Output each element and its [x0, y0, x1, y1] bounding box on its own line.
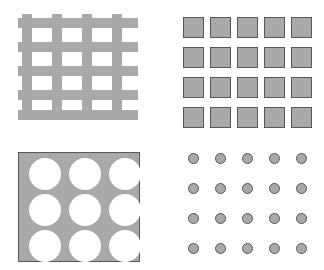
- pattern-square: [210, 47, 231, 68]
- plate-hole: [29, 158, 61, 190]
- pattern-dot: [269, 243, 280, 254]
- pattern-square: [237, 47, 258, 68]
- pattern-dot: [188, 153, 199, 164]
- dot-array-panel: [162, 135, 324, 270]
- pattern-dot: [188, 183, 199, 194]
- mesh-horizontal-bar: [18, 18, 138, 28]
- plate-hole: [69, 158, 101, 190]
- pattern-dot: [269, 213, 280, 224]
- pattern-dot: [215, 243, 226, 254]
- mesh-horizontal-bar: [18, 110, 138, 120]
- pattern-square: [237, 107, 258, 128]
- pattern-dot: [188, 243, 199, 254]
- pattern-square: [183, 77, 204, 98]
- perforated-plate-panel: [0, 135, 162, 270]
- pattern-square: [237, 77, 258, 98]
- plate-hole: [29, 230, 61, 262]
- pattern-square: [291, 17, 312, 38]
- perforated-plate: [18, 152, 140, 262]
- plate-hole: [109, 158, 141, 190]
- pattern-dot: [269, 183, 280, 194]
- plate-hole: [29, 194, 61, 226]
- pattern-square: [210, 17, 231, 38]
- plate-hole: [109, 194, 141, 226]
- mesh-horizontal-bar: [18, 90, 138, 100]
- square-array-panel: [162, 0, 324, 135]
- pattern-dot: [242, 213, 253, 224]
- pattern-dot: [242, 183, 253, 194]
- plate-hole: [69, 230, 101, 262]
- pattern-square: [264, 77, 285, 98]
- pattern-square: [183, 107, 204, 128]
- pattern-dot: [242, 243, 253, 254]
- pattern-dot: [269, 153, 280, 164]
- pattern-dot: [188, 213, 199, 224]
- pattern-square: [264, 17, 285, 38]
- pattern-figure: [0, 0, 324, 270]
- plate-hole: [109, 230, 141, 262]
- pattern-square: [291, 47, 312, 68]
- pattern-square: [237, 17, 258, 38]
- pattern-dot: [215, 213, 226, 224]
- pattern-dot: [296, 153, 307, 164]
- pattern-square: [264, 47, 285, 68]
- pattern-square: [210, 77, 231, 98]
- plate-hole: [69, 194, 101, 226]
- woven-mesh-panel: [0, 0, 162, 135]
- pattern-dot: [296, 183, 307, 194]
- pattern-dot: [296, 243, 307, 254]
- pattern-dot: [296, 213, 307, 224]
- pattern-square: [291, 77, 312, 98]
- mesh-horizontal-bar: [18, 42, 138, 52]
- pattern-square: [183, 17, 204, 38]
- pattern-square: [183, 47, 204, 68]
- pattern-dot: [215, 183, 226, 194]
- pattern-dot: [242, 153, 253, 164]
- pattern-square: [291, 107, 312, 128]
- mesh-horizontal-bar: [18, 66, 138, 76]
- pattern-dot: [215, 153, 226, 164]
- pattern-square: [210, 107, 231, 128]
- pattern-square: [264, 107, 285, 128]
